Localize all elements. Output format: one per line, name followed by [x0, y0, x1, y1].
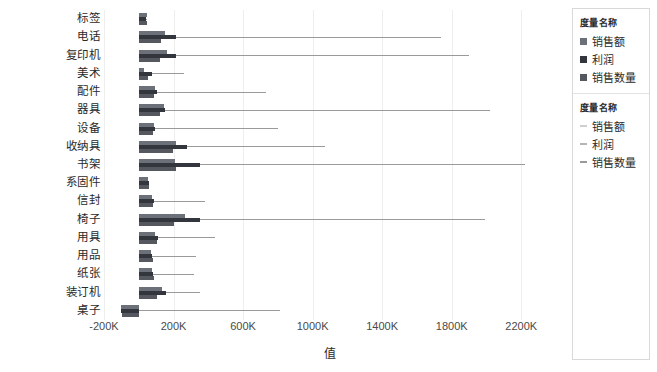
- bar-销售数量[interactable]: [139, 39, 162, 43]
- legend-swatch-icon: [580, 143, 587, 145]
- category-label[interactable]: 收纳具: [66, 140, 101, 153]
- chart-row: [104, 174, 556, 192]
- x-tick-label: 1400K: [366, 320, 398, 332]
- chart-row: [104, 83, 556, 101]
- legend-item-label: 销售数量: [592, 69, 636, 85]
- legend-item[interactable]: 销售数量: [580, 154, 643, 170]
- bar-销售数量[interactable]: [139, 131, 153, 135]
- bar-销售数量[interactable]: [139, 295, 157, 299]
- category-label[interactable]: 器具: [77, 103, 100, 116]
- legend-item-label: 销售额: [592, 118, 625, 134]
- legend-item-label: 利润: [592, 51, 614, 67]
- reference-line: [139, 55, 469, 56]
- category-label[interactable]: 标签: [77, 12, 100, 25]
- chart-row: [104, 10, 556, 28]
- chart-page: 标签电话复印机美术配件器具设备收纳具书架系固件信封椅子用具用品纸张装订机桌子 -…: [0, 0, 657, 372]
- bar-销售数量[interactable]: [139, 203, 153, 207]
- x-tick-label: 1800K: [436, 320, 468, 332]
- x-tick-label: 200K: [161, 320, 187, 332]
- chart-row: [104, 247, 556, 265]
- legend-title: 度量名称: [580, 101, 643, 114]
- legend-title: 度量名称: [580, 16, 643, 29]
- legend-swatch-icon: [580, 38, 587, 45]
- chart-row: [104, 302, 556, 320]
- chart-row: [104, 101, 556, 119]
- bar-销售数量[interactable]: [139, 58, 161, 62]
- chart-row: [104, 28, 556, 46]
- category-label[interactable]: 电话: [77, 30, 100, 43]
- x-tick-label: 2200K: [505, 320, 537, 332]
- chart-row: [104, 229, 556, 247]
- legend-item-label: 利润: [592, 136, 614, 152]
- legend-item[interactable]: 销售数量: [580, 69, 643, 85]
- category-axis: 标签电话复印机美术配件器具设备收纳具书架系固件信封椅子用具用品纸张装订机桌子: [0, 10, 104, 320]
- legend-item[interactable]: 销售额: [580, 33, 643, 49]
- chart-row: [104, 138, 556, 156]
- category-label[interactable]: 设备: [77, 122, 100, 135]
- reference-line: [139, 128, 278, 129]
- bar-销售数量[interactable]: [139, 149, 173, 153]
- x-axis-title: 值: [104, 344, 556, 361]
- legend-block: 度量名称销售额利润销售数量: [573, 93, 649, 178]
- chart-row: [104, 265, 556, 283]
- bar-销售数量[interactable]: [139, 258, 153, 262]
- category-label[interactable]: 复印机: [66, 49, 101, 62]
- bar-销售数量[interactable]: [139, 94, 155, 98]
- chart-row: [104, 192, 556, 210]
- chart-row: [104, 211, 556, 229]
- bar-销售数量[interactable]: [139, 112, 160, 116]
- category-label[interactable]: 装订机: [66, 286, 101, 299]
- bar-销售数量[interactable]: [139, 276, 154, 280]
- legend-item[interactable]: 利润: [580, 136, 643, 152]
- reference-line: [139, 110, 490, 111]
- legend-panel[interactable]: 度量名称销售额利润销售数量度量名称销售额利润销售数量: [572, 8, 650, 360]
- chart-row: [104, 156, 556, 174]
- legend-item[interactable]: 利润: [580, 51, 643, 67]
- category-label[interactable]: 纸张: [77, 267, 100, 280]
- legend-block: 度量名称销售额利润销售数量: [573, 9, 649, 93]
- reference-line: [139, 37, 441, 38]
- bar-销售数量[interactable]: [139, 240, 157, 244]
- x-axis-ticks: -200K200K600K1000K1400K1800K2200K: [104, 320, 556, 340]
- category-label[interactable]: 书架: [77, 158, 100, 171]
- bar-销售数量[interactable]: [139, 76, 149, 80]
- legend-swatch-icon: [580, 161, 587, 163]
- chart-row: [104, 46, 556, 64]
- x-tick-label: -200K: [89, 320, 118, 332]
- bar-销售数量[interactable]: [139, 167, 176, 171]
- reference-line: [139, 92, 266, 93]
- bar-销售数量[interactable]: [139, 185, 149, 189]
- category-label[interactable]: 信封: [77, 194, 100, 207]
- category-label[interactable]: 系固件: [66, 176, 101, 189]
- bar-销售数量[interactable]: [139, 21, 148, 25]
- x-tick-label: 1000K: [297, 320, 329, 332]
- bar-销售数量[interactable]: [139, 222, 174, 226]
- legend-item-label: 销售数量: [592, 154, 636, 170]
- legend-swatch-icon: [580, 74, 587, 81]
- legend-item[interactable]: 销售额: [580, 118, 643, 134]
- category-label[interactable]: 桌子: [77, 304, 100, 317]
- bar-销售数量[interactable]: [122, 313, 139, 317]
- plot-area: [104, 10, 556, 320]
- legend-swatch-icon: [580, 56, 587, 63]
- chart-row: [104, 284, 556, 302]
- category-label[interactable]: 用具: [77, 231, 100, 244]
- chart-area: 标签电话复印机美术配件器具设备收纳具书架系固件信封椅子用具用品纸张装订机桌子 -…: [0, 0, 566, 372]
- category-label[interactable]: 美术: [77, 67, 100, 80]
- chart-row: [104, 65, 556, 83]
- chart-row: [104, 119, 556, 137]
- legend-item-label: 销售额: [592, 33, 625, 49]
- x-tick-label: 600K: [230, 320, 256, 332]
- category-label[interactable]: 用品: [77, 249, 100, 262]
- legend-swatch-icon: [580, 125, 587, 127]
- reference-line: [139, 310, 280, 311]
- category-label[interactable]: 配件: [77, 85, 100, 98]
- category-label[interactable]: 椅子: [77, 213, 100, 226]
